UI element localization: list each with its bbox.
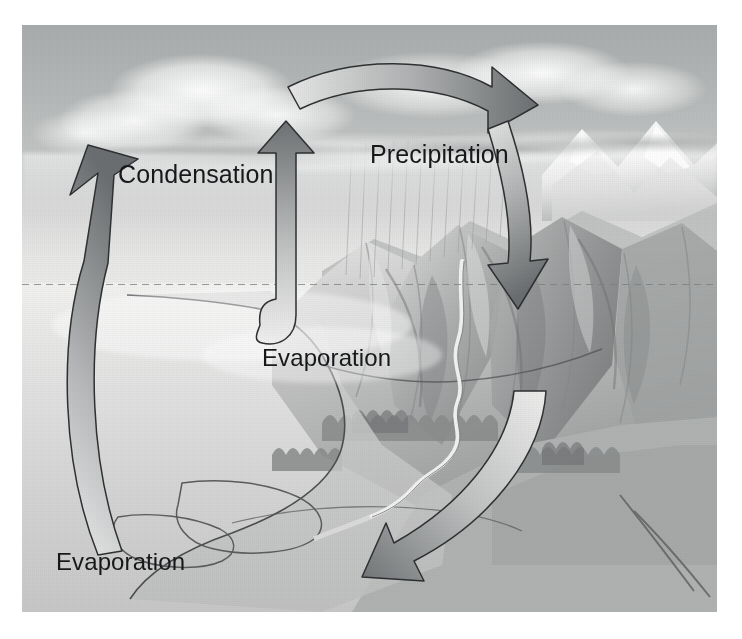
- runoff-arrow: [362, 391, 546, 581]
- cloud-transport-arrow: [288, 64, 538, 133]
- label-evaporation-sources: Evaporation from oceans, lakes, and rive…: [56, 487, 196, 612]
- water-cycle-illustration: Condensation Precipitation Evaporation E…: [22, 25, 717, 612]
- evaporation-arrow: [256, 121, 314, 344]
- label-evaporation: Evaporation: [262, 344, 391, 372]
- label-condensation: Condensation: [118, 160, 274, 189]
- illustration-page: Condensation Precipitation Evaporation E…: [0, 0, 742, 639]
- label-evaporation-sources-line1: Evaporation: [56, 547, 196, 577]
- label-precipitation: Precipitation: [370, 140, 509, 169]
